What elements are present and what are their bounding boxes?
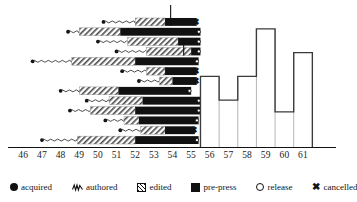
legend-label: release [267, 183, 292, 192]
gantt-row: ✖ [102, 5, 201, 27]
legend-item-edited: edited [137, 183, 171, 192]
black-square-icon [191, 183, 200, 192]
svg-text:✖: ✖ [192, 17, 200, 27]
legend-item-authored: authored [72, 183, 118, 192]
x-axis-tick-labels: 46474849505152535455565758596061 [0, 150, 342, 168]
gantt-row [31, 57, 199, 65]
legend-label: cancelled [323, 183, 357, 192]
legend-label: pre-press [203, 183, 236, 192]
gantt-row [40, 136, 199, 144]
gantt-row [96, 38, 200, 46]
x-tick-label-61: 61 [292, 150, 314, 160]
hatched-square-icon [137, 183, 146, 192]
release-histogram [200, 29, 312, 148]
svg-text:✖: ✖ [192, 76, 200, 86]
legend-item-acquired: acquired [10, 183, 52, 192]
gantt-row [66, 28, 200, 36]
open-circle-icon [256, 183, 264, 191]
plot-area: ✖✖✖✖ [0, 0, 342, 152]
gantt-row [59, 87, 191, 95]
gantt-bars-layer: ✖✖✖✖ [0, 0, 342, 152]
gantt-row: ✖ [137, 76, 200, 86]
legend-label: authored [86, 183, 118, 192]
filled-circle-icon [10, 183, 18, 191]
chart-legend: acquired authored edited pre-press relea… [0, 176, 342, 198]
wavy-line-icon [72, 183, 83, 192]
x-mark-icon: ✖ [312, 182, 320, 192]
gantt-row [68, 107, 200, 115]
svg-text:✖: ✖ [190, 125, 198, 135]
legend-item-pre-press: pre-press [191, 183, 236, 192]
legend-label: acquired [21, 183, 52, 192]
gantt-row: ✖ [118, 125, 198, 135]
legend-label: edited [149, 183, 171, 192]
legend-item-release: release [256, 183, 292, 192]
svg-text:✖: ✖ [192, 66, 200, 76]
gantt-row [85, 97, 201, 105]
gantt-row: ✖ [120, 66, 200, 76]
gantt-row [103, 116, 198, 124]
legend-item-cancelled: ✖ cancelled [312, 182, 357, 192]
